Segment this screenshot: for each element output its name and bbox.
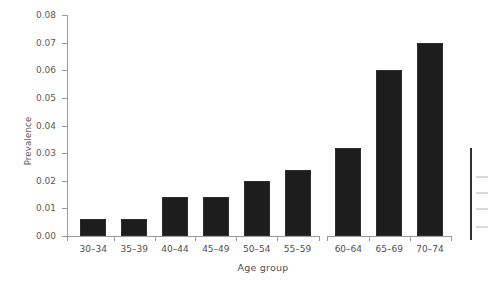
y-axis-tick-label: 0.07 xyxy=(22,38,56,48)
y-axis-tick-label: 0.01 xyxy=(22,203,56,213)
y-axis-tick-label: 0.08 xyxy=(22,10,56,20)
plot-area xyxy=(68,15,458,236)
page-smudge-artifact xyxy=(476,192,488,194)
x-axis-tick-mark xyxy=(195,236,196,241)
x-axis-tick-label: 70–74 xyxy=(400,244,460,254)
x-axis-tick-mark xyxy=(155,236,156,241)
bar xyxy=(203,197,229,236)
y-axis-tick-label: 0.03 xyxy=(22,148,56,158)
x-axis-tick-mark xyxy=(319,236,320,241)
x-axis-label: Age group xyxy=(68,262,458,273)
bar xyxy=(417,43,443,236)
page-edge-artifact xyxy=(470,148,472,240)
y-axis-tick-labels: 0.000.010.020.030.040.050.060.070.08 xyxy=(22,0,56,282)
x-axis-tick-mark xyxy=(369,236,370,241)
bar xyxy=(162,197,188,236)
x-axis-tick-mark xyxy=(114,236,115,241)
x-axis-tick-mark xyxy=(410,236,411,241)
bar xyxy=(376,70,402,236)
y-axis-tick-label: 0.00 xyxy=(22,231,56,241)
x-axis-tick-mark xyxy=(67,236,68,241)
page-smudge-artifact xyxy=(476,176,488,178)
bar-chart-figure: Prevalence 0.000.010.020.030.040.050.060… xyxy=(0,0,494,282)
y-axis-tick-label: 0.06 xyxy=(22,65,56,75)
x-axis-tick-mark xyxy=(451,236,452,241)
bar xyxy=(121,219,147,236)
bar xyxy=(285,170,311,236)
y-axis-tick-label: 0.04 xyxy=(22,121,56,131)
x-axis-tick-mark xyxy=(236,236,237,241)
bar xyxy=(335,148,361,236)
x-axis-spine-segment xyxy=(67,236,319,237)
y-axis-tick-label: 0.05 xyxy=(22,93,56,103)
x-axis-spine-segment xyxy=(327,236,451,237)
bar xyxy=(244,181,270,236)
page-smudge-artifact xyxy=(476,208,488,210)
y-axis-tick-label: 0.02 xyxy=(22,176,56,186)
bar xyxy=(80,219,106,236)
x-axis-tick-mark xyxy=(277,236,278,241)
x-axis-tick-mark xyxy=(327,236,328,241)
page-smudge-artifact xyxy=(476,226,488,228)
